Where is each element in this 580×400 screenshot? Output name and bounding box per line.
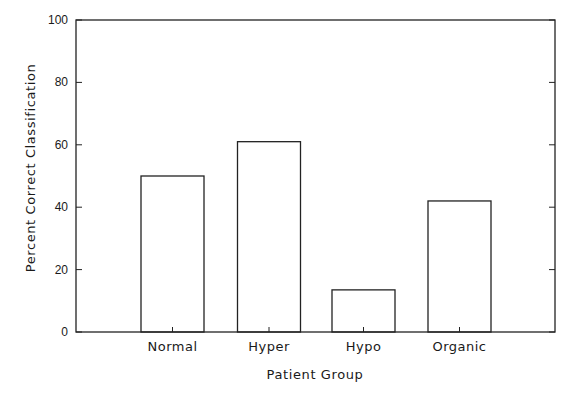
- bar-hypo: [332, 290, 395, 332]
- y-tick-label: 80: [55, 75, 69, 89]
- y-axis-label: Percent Correct Classification: [23, 64, 38, 273]
- y-tick-label: 20: [55, 263, 69, 277]
- x-tick-label: Organic: [432, 339, 486, 354]
- bar-organic: [428, 201, 491, 332]
- y-tick-label: 40: [55, 200, 69, 214]
- x-axis-label: Patient Group: [267, 367, 364, 382]
- x-tick-label: Hyper: [248, 339, 290, 354]
- bars-layer: [141, 142, 491, 332]
- x-tick-label: Hypo: [346, 339, 382, 354]
- y-tick-label: 0: [61, 325, 68, 339]
- bar-hyper: [238, 142, 301, 332]
- x-tick-label: Normal: [147, 339, 197, 354]
- y-tick-label: 60: [55, 138, 69, 152]
- y-tick-label: 100: [48, 13, 68, 27]
- bar-chart: 020406080100 NormalHyperHypoOrganic Pati…: [0, 0, 580, 400]
- bar-normal: [141, 176, 204, 332]
